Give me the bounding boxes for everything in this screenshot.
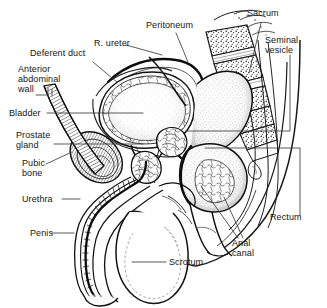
anal-canal-posterior-wall	[212, 212, 232, 256]
label-pubic-bone-line1: Pubic	[22, 158, 45, 168]
label-anterior-abdominal-wall-line1: Anterior	[18, 64, 50, 74]
anal-verge	[207, 252, 228, 256]
anatomy-figure: Deferent duct Anterior abdominal wall Bl…	[0, 0, 327, 308]
leader-deferent-duct	[93, 62, 118, 83]
label-penis: Penis	[30, 228, 53, 238]
rectum-upper-stipple	[195, 77, 247, 148]
label-r-ureter: R. ureter	[94, 38, 130, 48]
label-anal-canal-line1: Anal	[232, 238, 250, 248]
label-scrotum: Scrotum	[169, 257, 203, 267]
label-anterior-abdominal-wall-line2: abdominal	[18, 74, 60, 84]
label-deferent-duct: Deferent duct	[30, 48, 85, 58]
label-urethra: Urethra	[22, 194, 53, 204]
label-rectum: Rectum	[270, 212, 302, 222]
leader-pubic-bone	[46, 152, 72, 164]
label-pubic-bone-line2: bone	[22, 168, 42, 178]
seminal-vesicle-body	[156, 128, 186, 157]
label-anterior-abdominal-wall-line3: wall	[18, 84, 34, 94]
label-peritoneum: Peritoneum	[146, 20, 193, 30]
anal-sphincter-detail	[196, 227, 216, 233]
label-anal-canal-line2: canal	[232, 248, 254, 258]
label-sacrum: Sacrum	[247, 8, 279, 18]
label-seminal-vesicle-line2: vesicle	[265, 45, 293, 55]
label-bladder: Bladder	[9, 108, 41, 118]
label-prostate-gland-line1: Prostate	[16, 130, 50, 140]
label-prostate-gland-line2: gland	[16, 140, 39, 150]
leader-r-ureter	[126, 45, 162, 55]
leader-peritoneum	[176, 33, 188, 62]
label-seminal-vesicle-line1: Seminal	[265, 35, 298, 45]
